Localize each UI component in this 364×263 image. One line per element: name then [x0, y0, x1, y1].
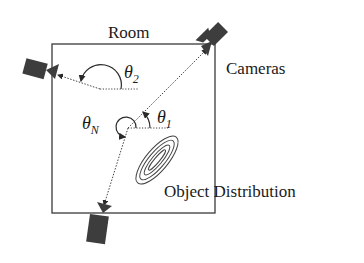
camera-2-view-ray [58, 75, 100, 89]
camera-icon-bottom [86, 214, 109, 244]
room-label: Room [108, 23, 150, 42]
cameras-label: Cameras [226, 59, 285, 78]
theta-2-label: θ2 [124, 62, 139, 86]
camera-icon-top-right [195, 20, 228, 53]
theta-n-label: θN [82, 113, 100, 137]
camera-n-view-ray [104, 128, 128, 205]
theta-1-arc [143, 112, 150, 128]
theta-2-arc [81, 65, 121, 89]
object-distribution-label: Object Distribution [164, 182, 296, 201]
room-camera-diagram: Room Cameras Object Distribution θ1 θ2 θ… [0, 0, 364, 263]
theta-1-label: θ1 [157, 107, 172, 131]
camera-icon-left [22, 58, 47, 79]
